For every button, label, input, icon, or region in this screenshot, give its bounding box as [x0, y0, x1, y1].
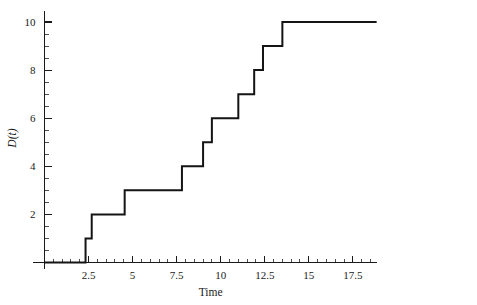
y-tick-label: 2	[30, 208, 36, 220]
chart-figure: 2.557.51012.51517.5 246810 Time D(t)	[0, 0, 477, 305]
step-function-plot: 2.557.51012.51517.5 246810 Time D(t)	[0, 0, 477, 305]
y-axis-title: D(t)	[7, 128, 20, 148]
y-tick-label: 4	[30, 160, 36, 172]
x-tick-label: 2.5	[82, 269, 96, 281]
x-tick-label: 5	[130, 269, 136, 281]
x-axis-title: Time	[199, 286, 223, 298]
x-tick-label: 10	[215, 269, 227, 281]
y-tick-label: 10	[25, 16, 37, 28]
x-tick-label: 15	[303, 269, 315, 281]
x-tick-label: 17.5	[343, 269, 363, 281]
x-tick-label: 12.5	[255, 269, 275, 281]
y-tick-label: 8	[30, 64, 36, 76]
x-tick-label: 7.5	[170, 269, 184, 281]
y-tick-label: 6	[30, 112, 36, 124]
